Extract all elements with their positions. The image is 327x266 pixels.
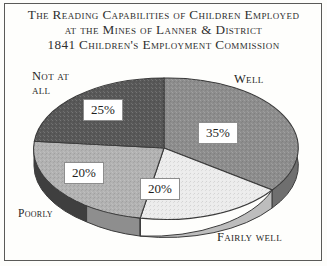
- slice-value-well: 35%: [198, 122, 238, 144]
- chart-page: The Reading Capabilities of Children Emp…: [0, 0, 327, 266]
- slice-value-poorly: 20%: [64, 162, 104, 184]
- slice-label-poorly: Poorly: [18, 206, 53, 220]
- slice-label-not-at-all: Not at all: [32, 69, 69, 97]
- slice-label-not-at-all-line2: all: [32, 83, 69, 97]
- slice-value-not-at-all: 25%: [83, 99, 123, 121]
- slice-label-fairly-well: Fairly well: [217, 230, 282, 244]
- slice-value-fairly-well: 20%: [140, 178, 180, 200]
- pie-chart: Not at all Well Poorly Fairly well 25% 3…: [0, 0, 327, 266]
- slice-label-well: Well: [234, 72, 264, 86]
- pie-chart-svg: [0, 0, 327, 266]
- slice-label-not-at-all-line1: Not at: [32, 69, 69, 83]
